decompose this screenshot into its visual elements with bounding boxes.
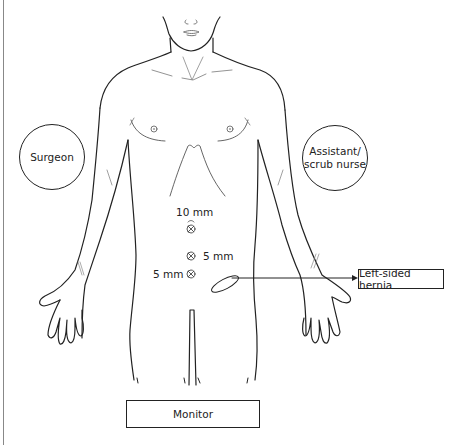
- monitor-position: Monitor: [126, 400, 260, 428]
- costal-margin: [170, 145, 225, 196]
- assistant-label-line2: scrub nurse: [304, 158, 366, 170]
- surgeon-position: Surgeon: [19, 124, 85, 190]
- legs-bottom: [137, 378, 248, 383]
- assistant-label-line1: Assistant/: [309, 145, 360, 157]
- port-label-5mm-upper: 5 mm: [203, 250, 233, 262]
- flank-marks: [107, 170, 283, 185]
- mouth: [184, 31, 199, 36]
- right-pectoral: [131, 120, 165, 141]
- assistant-position: Assistant/ scrub nurse: [302, 125, 368, 191]
- port-label-10mm: 10 mm: [176, 206, 213, 218]
- right-shoulder: [100, 52, 171, 108]
- torso-right-side: [128, 140, 136, 380]
- left-hand: [303, 297, 340, 343]
- right-hand: [48, 300, 83, 344]
- left-arm-inner: [258, 140, 306, 335]
- port-marker-5mm-lower: [187, 270, 195, 278]
- axilla-marks: [130, 118, 250, 125]
- right-arm-inner: [82, 140, 128, 338]
- hernia-callout-box: Left-sided hernia: [358, 269, 444, 289]
- clavicles: [152, 70, 232, 80]
- left-shoulder: [213, 52, 285, 110]
- body-outline-illustration: [0, 0, 458, 445]
- assistant-label: Assistant/ scrub nurse: [304, 145, 366, 171]
- torso-left-side: [253, 140, 258, 380]
- jaw-outline: [163, 17, 220, 51]
- leg-division: [189, 310, 196, 385]
- wrist-marks: [78, 254, 319, 275]
- hernia-site: [209, 273, 240, 296]
- port-label-5mm-lower: 5 mm: [153, 268, 183, 280]
- port-marker-5mm-upper: [187, 252, 195, 260]
- port-marker-10mm: [187, 221, 195, 234]
- hernia-callout-label: Left-sided hernia: [359, 267, 443, 291]
- monitor-label: Monitor: [173, 408, 213, 420]
- nose: [185, 20, 197, 24]
- surgeon-label: Surgeon: [30, 151, 74, 164]
